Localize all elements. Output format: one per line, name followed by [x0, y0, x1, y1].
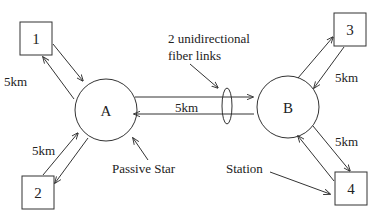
- star-b-label: B: [283, 100, 293, 116]
- link-1-a-distance: 5km: [4, 74, 27, 89]
- link-2-a-distance: 5km: [32, 143, 55, 158]
- station-3: 3: [334, 13, 366, 46]
- station-3-label: 3: [346, 22, 354, 38]
- station-pointer-arrow: [270, 172, 330, 194]
- fiber-annotation-line2: fiber links: [168, 48, 221, 63]
- station-2: 2: [22, 176, 54, 209]
- passive-star-b: B: [257, 76, 319, 138]
- link-4-b-distance: 5km: [335, 134, 358, 149]
- passive-star-a: A: [75, 79, 137, 141]
- passive-star-annotation: Passive Star: [112, 161, 176, 176]
- station-1: 1: [20, 22, 52, 55]
- passive-star-network-diagram: 1 2 3 4 A B 5km 5km 5km 2 un: [0, 0, 387, 220]
- station-2-label: 2: [34, 185, 42, 201]
- station-4: 4: [335, 172, 367, 205]
- fiber-pointer-arrow: [190, 64, 218, 88]
- fiber-bundle-ellipse: [222, 88, 232, 124]
- passive-star-pointer-arrow: [133, 138, 148, 160]
- fiber-annotation-line1: 2 unidirectional: [168, 31, 250, 46]
- station-annotation: Station: [226, 161, 263, 176]
- link-3-b-distance: 5km: [335, 70, 358, 85]
- station-1-label: 1: [32, 31, 40, 47]
- star-a-label: A: [101, 103, 112, 119]
- station-4-label: 4: [347, 181, 355, 197]
- link-a-b-distance: 5km: [175, 100, 198, 115]
